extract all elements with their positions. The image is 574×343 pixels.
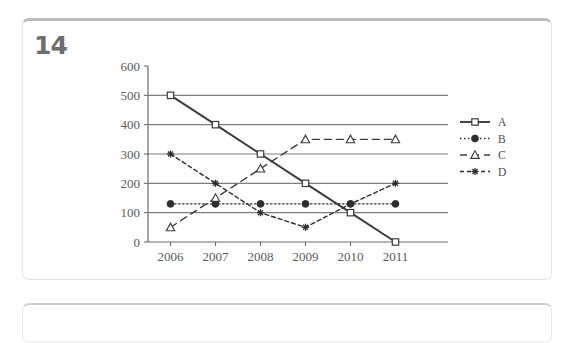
gridlines — [148, 95, 448, 212]
chart-legend: ABCD — [460, 116, 507, 178]
data-point-A-2007 — [212, 121, 218, 127]
x-tick-label-2010: 2010 — [338, 249, 364, 264]
data-point-A-2008 — [257, 151, 263, 157]
x-tick-label-2008: 2008 — [248, 249, 274, 264]
legend-label-D: D — [498, 166, 506, 178]
line-chart: 0100200300400500600 20062007200820092010… — [100, 52, 520, 270]
legend-label-C: C — [498, 149, 506, 161]
y-tick-label-300: 300 — [121, 147, 141, 162]
series-D — [167, 150, 399, 231]
chart-canvas: 0100200300400500600 20062007200820092010… — [100, 52, 520, 270]
y-tick-label-500: 500 — [121, 88, 141, 103]
legend-item-D[interactable]: D — [460, 166, 506, 178]
data-point-A-2011 — [392, 239, 398, 245]
series-line-A — [171, 95, 396, 242]
legend-marker-A — [472, 119, 478, 125]
data-point-A-2009 — [302, 180, 308, 186]
y-tick-label-100: 100 — [121, 205, 141, 220]
question-number: 14 — [34, 33, 67, 58]
data-series-layer — [166, 92, 399, 245]
data-point-D-2009 — [302, 224, 309, 231]
legend-marker-D — [471, 168, 478, 175]
legend-marker-B — [472, 135, 479, 142]
data-point-C-2006 — [166, 223, 174, 231]
data-point-D-2008 — [257, 209, 264, 216]
data-point-B-2006 — [167, 200, 174, 207]
y-tick-label-600: 600 — [121, 59, 141, 74]
data-point-B-2008 — [257, 200, 264, 207]
legend-label-B: B — [498, 133, 506, 145]
x-axis-tick-labels: 200620072008200920102011 — [158, 249, 409, 264]
y-tick-label-0: 0 — [134, 235, 141, 250]
data-point-A-2010 — [347, 209, 353, 215]
data-point-C-2007 — [211, 194, 219, 202]
data-point-C-2008 — [256, 164, 264, 172]
data-point-A-2006 — [167, 92, 173, 98]
y-tick-label-200: 200 — [121, 176, 141, 191]
data-point-D-2007 — [212, 180, 219, 187]
legend-item-A[interactable]: A — [460, 116, 507, 128]
legend-label-A: A — [498, 116, 507, 128]
y-tick-label-400: 400 — [121, 117, 141, 132]
series-line-D — [171, 154, 396, 227]
y-axis-tick-labels: 0100200300400500600 — [121, 59, 141, 250]
data-point-C-2009 — [301, 135, 309, 143]
data-point-B-2009 — [302, 200, 309, 207]
legend-item-B[interactable]: B — [460, 133, 506, 145]
legend-item-C[interactable]: C — [460, 149, 506, 161]
axes — [144, 66, 448, 246]
x-tick-label-2006: 2006 — [158, 249, 185, 264]
data-point-C-2011 — [391, 135, 399, 143]
series-A — [167, 92, 398, 245]
data-point-D-2011 — [392, 180, 399, 187]
data-point-B-2011 — [392, 200, 399, 207]
data-point-D-2006 — [167, 150, 174, 157]
next-question-card — [22, 303, 552, 343]
x-tick-label-2011: 2011 — [383, 249, 409, 264]
x-tick-label-2009: 2009 — [293, 249, 319, 264]
x-tick-label-2007: 2007 — [203, 249, 230, 264]
